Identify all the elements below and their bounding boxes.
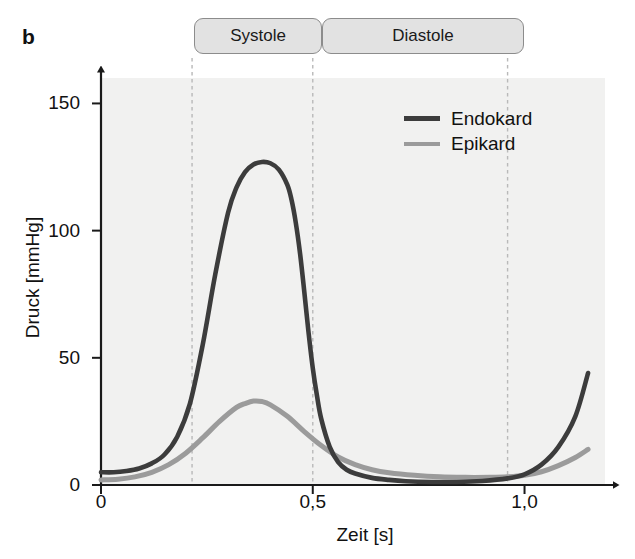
legend-swatch-endokard	[404, 116, 440, 121]
x-tick-label-1: 0,5	[283, 492, 343, 511]
legend-swatch-epikard	[404, 142, 440, 146]
legend: Endokard Epikard	[404, 106, 532, 156]
y-axis-ticks	[92, 103, 101, 485]
x-axis-title: Zeit [s]	[290, 525, 440, 544]
legend-item-endokard: Endokard	[404, 106, 532, 131]
y-axis-title: Druck [mmHg]	[23, 168, 42, 388]
x-tick-label-0: 0	[71, 492, 131, 511]
y-tick-label-3: 150	[24, 93, 80, 112]
legend-item-epikard: Epikard	[404, 131, 532, 156]
legend-label-epikard: Epikard	[451, 134, 515, 153]
x-tick-label-2: 1,0	[495, 492, 555, 511]
series-line-endokard	[101, 162, 588, 482]
plot-canvas	[0, 0, 635, 559]
legend-label-endokard: Endokard	[451, 109, 532, 128]
figure-panel-b: b Systole Diastole 050100150 00,51,0 Dru…	[0, 0, 635, 559]
